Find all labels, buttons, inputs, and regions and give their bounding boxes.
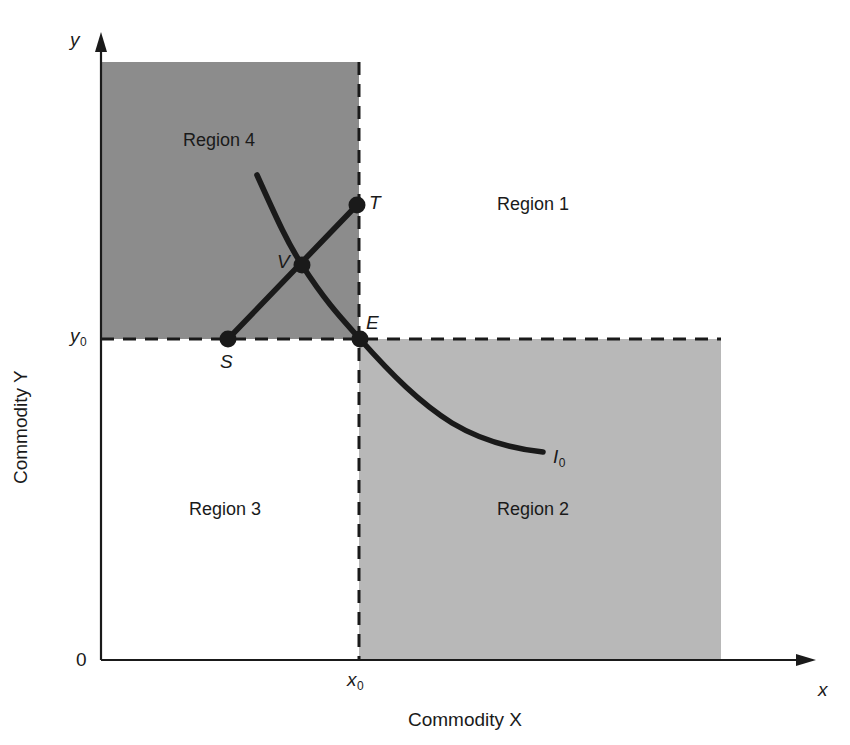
curve-label-base: I [553, 446, 558, 467]
point-v-marker [294, 257, 311, 274]
indifference-curve-label: I0 [553, 447, 565, 466]
point-e-marker [352, 331, 369, 348]
x-axis-title: Commodity X [408, 710, 522, 729]
economics-diagram: Region 4 Region 1 Region 2 Region 3 T V … [0, 0, 850, 745]
origin-label: 0 [76, 650, 87, 669]
point-s-marker [220, 331, 237, 348]
point-v-label: V [277, 252, 290, 271]
x0-tick-subscript: 0 [357, 679, 364, 693]
point-s-label: S [220, 352, 233, 371]
y0-tick-base: y [70, 325, 80, 346]
region-4-shading [101, 62, 359, 339]
x-axis-arrowhead [796, 654, 816, 666]
y-axis-title: Commodity Y [11, 370, 30, 484]
y-axis-arrowhead [95, 32, 107, 52]
region-4-label: Region 4 [183, 131, 255, 149]
curve-label-subscript: 0 [559, 456, 566, 470]
y0-tick-subscript: 0 [80, 335, 87, 349]
diagram-canvas [0, 0, 850, 745]
x0-tick-label: x0 [347, 670, 364, 689]
y-axis-variable-label: y [70, 30, 80, 49]
region-2-label: Region 2 [497, 500, 569, 518]
point-e-label: E [366, 313, 379, 332]
x0-tick-base: x [347, 669, 357, 690]
x-axis-variable-label: x [818, 680, 828, 699]
y0-tick-label: y0 [70, 326, 87, 345]
point-t-marker [349, 197, 366, 214]
point-t-label: T [369, 193, 381, 212]
region-3-label: Region 3 [189, 500, 261, 518]
region-1-label: Region 1 [497, 195, 569, 213]
